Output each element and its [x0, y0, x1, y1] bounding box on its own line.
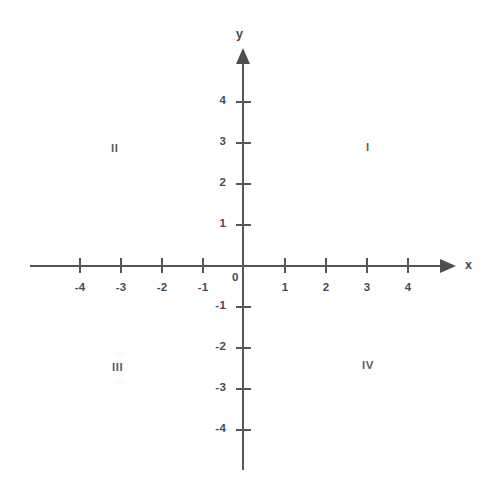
x-axis-tick [325, 258, 327, 273]
quadrant-label-iv: IV [362, 359, 374, 371]
y-axis-tick-label: -2 [196, 340, 226, 352]
y-axis-tick-label: -4 [196, 422, 226, 434]
x-axis-tick-label: 1 [270, 281, 300, 293]
coordinate-plane-figure: -4 -3 -2 -1 1 2 3 4 4 3 2 1 -1 -2 -3 -4 … [0, 0, 498, 503]
y-axis-tick-label: 4 [196, 94, 226, 106]
y-axis-tick [236, 224, 251, 226]
y-axis-tick-label: 1 [196, 217, 226, 229]
y-axis-tick [236, 183, 251, 185]
y-axis-tick [236, 306, 251, 308]
y-axis-tick [236, 347, 251, 349]
x-axis-tick-label: -4 [65, 281, 95, 293]
x-axis-tick [120, 258, 122, 273]
x-axis-arrowhead-icon [440, 259, 456, 273]
x-axis-tick [407, 258, 409, 273]
quadrant-label-i: I [366, 141, 370, 153]
y-axis-tick-label: 2 [196, 176, 226, 188]
x-axis-tick [161, 258, 163, 273]
y-axis-tick-label: -3 [196, 381, 226, 393]
quadrant-label-iii: III [112, 361, 123, 373]
x-axis-tick [284, 258, 286, 273]
x-axis-tick-label: 4 [393, 281, 423, 293]
y-axis-tick [236, 429, 251, 431]
x-axis-line [30, 265, 442, 267]
x-axis-tick-label: 2 [311, 281, 341, 293]
x-axis-tick-label: -2 [147, 281, 177, 293]
quadrant-label-ii: II [111, 142, 119, 154]
x-axis-tick [366, 258, 368, 273]
x-axis-tick [202, 258, 204, 273]
y-axis-label: y [236, 27, 243, 41]
y-axis-line [242, 62, 244, 470]
origin-label: 0 [232, 271, 238, 283]
x-axis-label: x [465, 258, 472, 272]
x-axis-tick-label: -3 [106, 281, 136, 293]
y-axis-tick [236, 388, 251, 390]
x-axis-tick-label: 3 [352, 281, 382, 293]
y-axis-tick-label: -1 [196, 299, 226, 311]
y-axis-tick [236, 101, 251, 103]
y-axis-arrowhead-icon [236, 48, 250, 64]
y-axis-tick [236, 142, 251, 144]
y-axis-tick-label: 3 [196, 135, 226, 147]
x-axis-tick [79, 258, 81, 273]
x-axis-tick-label: -1 [188, 281, 218, 293]
